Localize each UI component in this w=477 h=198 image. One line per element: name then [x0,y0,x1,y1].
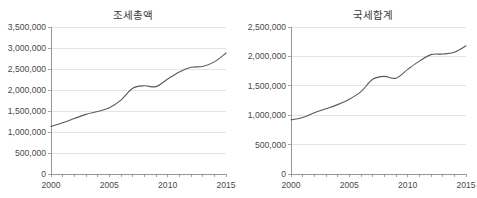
y-tick-label: 2,500,000 [8,64,46,74]
y-tick-label: 1,500,000 [248,81,286,91]
y-tick-label: 500,000 [255,140,286,150]
y-tick-label: 0 [41,169,46,179]
chart-title: 국세합계 [353,9,393,21]
x-tick-label: 2000 [281,180,300,190]
x-tick-label: 2000 [41,180,60,190]
y-tick-label: 1,500,000 [8,106,46,116]
x-tick-labels: 2000200520102015 [41,180,235,190]
chart-page: 조세총액 0500,0001,000,0001,500,0002,000,000… [0,0,477,198]
x-axis [51,174,226,177]
y-tick-label: 2,500,000 [248,22,286,32]
y-tick-label: 0 [281,169,286,179]
chart-title: 조세총액 [113,9,153,21]
x-tick-label: 2010 [158,180,177,190]
y-tick-label: 3,000,000 [8,43,46,53]
y-axis [48,27,51,174]
x-tick-label: 2015 [216,180,235,190]
y-axis [288,27,291,174]
x-tick-label: 2005 [340,180,359,190]
gridlines [291,27,466,145]
chart-panel-right: 국세합계 0500,0001,000,0001,500,0002,000,000… [237,0,477,198]
y-tick-label: 500,000 [15,148,46,158]
x-tick-label: 2010 [398,180,417,190]
y-tick-label: 2,000,000 [248,51,286,61]
y-tick-labels: 0500,0001,000,0001,500,0002,000,0002,500… [248,22,286,179]
x-tick-label: 2015 [456,180,475,190]
line-chart-total-tax: 조세총액 0500,0001,000,0001,500,0002,000,000… [0,0,237,198]
x-tick-label: 2005 [100,180,119,190]
x-axis [291,174,466,177]
y-tick-label: 1,000,000 [248,110,286,120]
y-tick-label: 1,000,000 [8,127,46,137]
y-tick-label: 3,500,000 [8,22,46,32]
gridlines [51,27,226,153]
series-group [291,46,466,120]
line-chart-national-tax: 국세합계 0500,0001,000,0001,500,0002,000,000… [237,0,477,198]
y-tick-labels: 0500,0001,000,0001,500,0002,000,0002,500… [8,22,46,179]
chart-panel-left: 조세총액 0500,0001,000,0001,500,0002,000,000… [0,0,237,198]
y-tick-label: 2,000,000 [8,85,46,95]
series-line [291,46,466,120]
x-tick-labels: 2000200520102015 [281,180,475,190]
